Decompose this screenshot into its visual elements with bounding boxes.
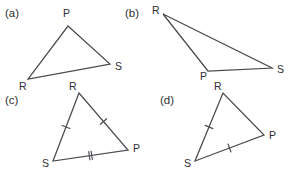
vertex-label-d-s: S <box>184 157 191 169</box>
vertex-label-d-p: P <box>269 129 276 141</box>
triangle-outline-b <box>163 14 272 71</box>
vertex-label-c-s: S <box>42 157 49 169</box>
triangle-outline-c <box>53 93 128 161</box>
tick-mark <box>89 152 90 160</box>
triangle-panel-b: RPS(b) <box>125 4 284 82</box>
vertex-label-a-p: P <box>63 7 70 19</box>
vertex-label-c-r: R <box>69 80 77 92</box>
panel-label-b: (b) <box>125 7 139 19</box>
triangle-outline-d <box>195 93 264 161</box>
vertex-label-b-s: S <box>277 63 284 75</box>
triangle-outline-a <box>28 26 110 79</box>
triangle-diagram-canvas: PSR(a)RPS(b)RSP(c)RSP(d) <box>0 0 291 175</box>
vertex-label-b-p: P <box>200 70 207 82</box>
triangle-panel-c: RSP(c) <box>5 80 140 169</box>
vertex-label-c-p: P <box>133 142 140 154</box>
vertex-label-d-r: R <box>214 80 222 92</box>
vertex-label-a-s: S <box>115 60 122 72</box>
panel-label-a: (a) <box>5 7 19 19</box>
vertex-label-a-r: R <box>19 80 27 92</box>
triangle-panel-d: RSP(d) <box>160 80 276 169</box>
panel-label-c: (c) <box>5 94 19 106</box>
vertex-label-b-r: R <box>152 4 160 16</box>
triangle-figure: PSR(a)RPS(b)RSP(c)RSP(d) <box>0 0 291 175</box>
triangle-panel-a: PSR(a) <box>5 7 122 92</box>
panel-label-d: (d) <box>160 94 174 106</box>
tick-mark <box>91 151 92 159</box>
